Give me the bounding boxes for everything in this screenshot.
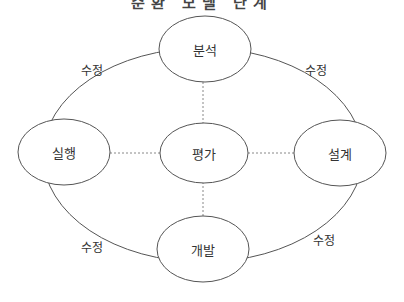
edge-label-bottom-left: 수정 xyxy=(81,238,103,255)
edge-label-top-left: 수정 xyxy=(81,61,103,78)
node-label-top: 분석 xyxy=(193,40,217,59)
node-label-right: 설계 xyxy=(328,144,352,163)
node-label-bottom: 개발 xyxy=(191,240,215,259)
node-label-left: 실행 xyxy=(52,143,76,162)
node-label-center: 평가 xyxy=(192,144,216,163)
edge-label-top-right: 수정 xyxy=(305,61,327,78)
edge-label-bottom-right: 수정 xyxy=(313,231,335,248)
